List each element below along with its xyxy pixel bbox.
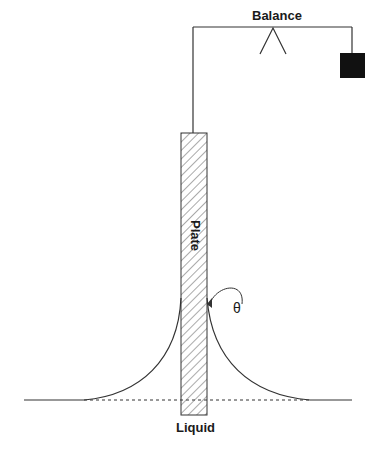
liquid-label: Liquid xyxy=(176,420,215,435)
plate xyxy=(181,133,207,415)
balance-label: Balance xyxy=(252,8,302,23)
plate-label: Plate xyxy=(188,220,203,251)
counterweight xyxy=(340,53,365,78)
meniscus-right xyxy=(207,298,310,400)
angle-label: θ xyxy=(233,300,241,316)
balance-pivot xyxy=(260,28,286,54)
meniscus-left xyxy=(84,298,181,400)
balance xyxy=(193,27,365,78)
